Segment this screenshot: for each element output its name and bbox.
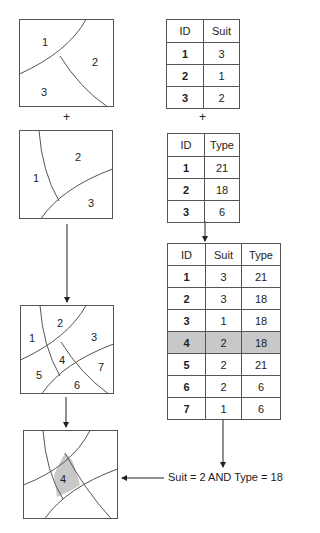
cell-type: 6: [242, 398, 281, 420]
map3-label-5: 5: [36, 369, 42, 381]
table-row: 7 1 6: [168, 398, 281, 420]
cell-id: 3: [167, 87, 204, 109]
map1-label-3: 3: [41, 86, 47, 98]
combined-table: ID Suit Type 1 3 21 2 3 18 3 1 18 4 2 18…: [167, 243, 281, 420]
cell-id: 1: [168, 266, 206, 288]
header-id: ID: [168, 134, 205, 157]
table-row: 2 18: [168, 179, 240, 201]
map2-label-1: 1: [33, 172, 39, 184]
header-id: ID: [167, 20, 204, 43]
table-row: 3 1 18: [168, 310, 281, 332]
cell-id: 1: [167, 43, 204, 65]
header-type: Type: [242, 244, 281, 266]
cell-type: 18: [242, 288, 281, 310]
cell-suit: 2: [206, 376, 242, 398]
table-row: 1 21: [168, 157, 240, 179]
header-id: ID: [168, 244, 206, 266]
table-row: 2 3 18: [168, 288, 281, 310]
cell-type: 21: [242, 266, 281, 288]
map1-label-2: 2: [92, 56, 98, 68]
map3-label-1: 1: [29, 332, 35, 344]
cell-id: 3: [168, 201, 205, 223]
table-header-row: ID Suit: [167, 20, 240, 43]
map3-label-2: 2: [57, 317, 63, 329]
plus-sign-tables: +: [199, 110, 206, 124]
cell-suit: 3: [206, 288, 242, 310]
cell-id: 3: [168, 310, 206, 332]
cell-type: 21: [242, 354, 281, 376]
table-row: 1 3 21: [168, 266, 281, 288]
cell-suit: 1: [206, 310, 242, 332]
map3-label-7: 7: [98, 361, 104, 373]
table-row: 5 2 21: [168, 354, 281, 376]
map1-label-1: 1: [42, 36, 48, 48]
cell-id: 2: [168, 288, 206, 310]
cell-suit: 2: [206, 332, 242, 354]
cell-id: 1: [168, 157, 205, 179]
map-suitability: 1 2 3: [20, 20, 114, 107]
cell-type: 6: [242, 376, 281, 398]
table-header-row: ID Suit Type: [168, 244, 281, 266]
header-suit: Suit: [204, 20, 240, 43]
cell-id: 4: [168, 332, 206, 354]
map4-label-4: 4: [60, 473, 66, 485]
cell-type: 18: [242, 332, 281, 354]
cell-type: 18: [205, 179, 240, 201]
cell-type: 18: [242, 310, 281, 332]
cell-suit: 3: [206, 266, 242, 288]
map3-label-6: 6: [74, 379, 80, 391]
cell-id: 2: [168, 179, 205, 201]
cell-suit: 2: [206, 354, 242, 376]
cell-suit: 2: [204, 87, 240, 109]
header-type: Type: [205, 134, 240, 157]
cell-type: 6: [205, 201, 240, 223]
cell-type: 21: [205, 157, 240, 179]
query-label: Suit = 2 AND Type = 18: [168, 471, 283, 483]
table-header-row: ID Type: [168, 134, 240, 157]
map2-label-2: 2: [75, 151, 81, 163]
cell-id: 7: [168, 398, 206, 420]
plus-sign-maps: +: [63, 110, 70, 124]
table-row: 3 2: [167, 87, 240, 109]
map-overlay: 1 2 3 4 5 6 7: [21, 306, 114, 394]
map-query-result: 4: [24, 431, 118, 519]
cell-suit: 3: [204, 43, 240, 65]
header-suit: Suit: [206, 244, 242, 266]
table-row-highlighted: 4 2 18: [168, 332, 281, 354]
map2-label-3: 3: [88, 197, 94, 209]
type-table: ID Type 1 21 2 18 3 6: [167, 133, 240, 223]
map3-label-4: 4: [59, 354, 65, 366]
cell-id: 2: [167, 65, 204, 87]
table-row: 3 6: [168, 201, 240, 223]
cell-suit: 1: [206, 398, 242, 420]
cell-id: 5: [168, 354, 206, 376]
cell-id: 6: [168, 376, 206, 398]
table-row: 1 3: [167, 43, 240, 65]
cell-suit: 1: [204, 65, 240, 87]
map3-label-3: 3: [91, 331, 97, 343]
table-row: 2 1: [167, 65, 240, 87]
suit-table: ID Suit 1 3 2 1 3 2: [166, 19, 240, 109]
map-type: 1 2 3: [20, 131, 113, 219]
table-row: 6 2 6: [168, 376, 281, 398]
